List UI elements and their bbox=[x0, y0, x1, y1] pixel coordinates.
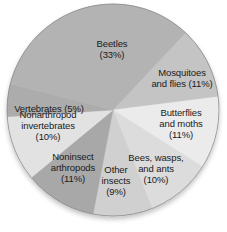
slice-label: Mosquitoesand flies (11%) bbox=[151, 67, 212, 89]
slice-label: Beetles(33%) bbox=[97, 38, 128, 60]
slice-label: Vertebrates (5%) bbox=[14, 103, 84, 114]
pie-chart: Mosquitoesand flies (11%)Butterfliesand … bbox=[0, 0, 227, 232]
